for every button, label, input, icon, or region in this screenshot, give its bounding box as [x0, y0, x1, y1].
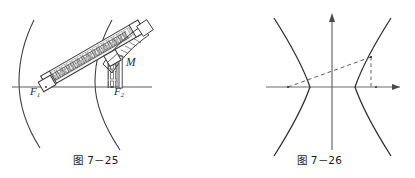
label-m-left-figure: M: [126, 57, 136, 69]
figure-7-25-caption: 图 7－25: [0, 152, 200, 167]
figure-7-25: F1 F2 M 图 7－25: [0, 0, 208, 178]
label-f1-left-figure: F1: [30, 86, 40, 99]
figure-7-26: F1(−c, 0) O F2(c, 0) x y M(x, y) 图 7－26: [208, 0, 415, 178]
focus-marker-f2: [375, 86, 377, 88]
figure-7-26-caption: 图 7－26: [216, 152, 415, 167]
point-marker-m: [370, 56, 372, 58]
label-f2-left-figure: F2: [114, 86, 124, 99]
y-axis-arrowhead: [329, 13, 335, 22]
dashed-focal-radius-f1-m: [288, 57, 371, 87]
x-axis-arrowhead: [392, 84, 400, 90]
hyperbola-left-branch: [19, 20, 40, 148]
focus-marker-f2: [111, 86, 113, 88]
focus-marker-f1: [287, 86, 289, 88]
focus-marker-f1: [45, 86, 47, 88]
